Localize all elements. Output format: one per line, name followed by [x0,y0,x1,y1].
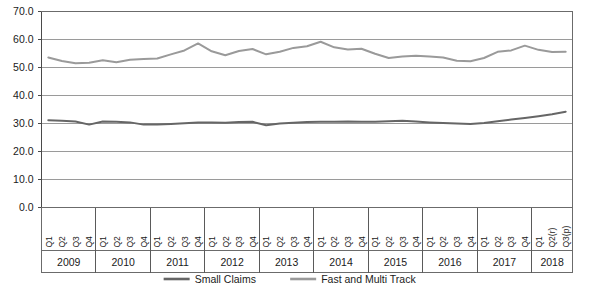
x-axis-quarter-label: Q3 [506,236,516,248]
series-line-fast-and-multi-track [48,42,565,64]
plot-area-border [42,12,573,208]
y-axis-label: 70.0 [13,5,34,17]
legend-label: Small Claims [195,273,256,285]
gridlines-group [42,12,573,208]
x-axis-quarter-label: Q4 [466,236,476,248]
x-axis-quarter-label: Q4 [357,236,367,248]
x-axis-quarter-label: Q3 [343,236,353,248]
x-axis-quarter-label: Q3 [71,236,81,248]
x-axis-quarter-label: Q1 [316,236,326,248]
y-axis-ticks-group [38,12,42,208]
x-axis-quarter-label: Q3 [452,236,462,248]
x-axis-quarter-label: Q2 [384,236,394,248]
x-axis-year-label: 2009 [57,256,81,268]
x-axis-quarter-label: Q1 [261,236,271,248]
chart-legend: Small ClaimsFast and Multi Track [164,273,417,285]
y-axis-label: 0.0 [19,201,34,213]
x-axis-quarter-label: Q1 [152,236,162,248]
y-axis-label: 40.0 [13,89,34,101]
x-axis-year-label: 2016 [438,256,462,268]
y-axis-label: 20.0 [13,145,34,157]
x-axis-quarter-label: Q4 [248,236,258,248]
line-chart: 70.060.050.040.030.020.010.00.0 Q1Q2Q3Q4… [0,0,594,287]
x-axis-year-label: 2017 [493,256,517,268]
x-axis-quarter-label: Q1 [534,236,544,248]
x-axis-quarter-label: Q4 [411,236,421,248]
x-axis-quarter-label: Q1 [479,236,489,248]
y-axis-label: 60.0 [13,33,34,45]
x-axis-year-label: 2015 [384,256,408,268]
y-axis-labels-group: 70.060.050.040.030.020.010.00.0 [13,5,34,213]
data-series-group [48,42,565,125]
x-axis-quarter-label: Q1 [370,236,380,248]
x-axis-quarter-label: Q3 [398,236,408,248]
x-axis-quarter-label: Q1 [98,236,108,248]
x-axis-quarter-label: Q1 [44,236,54,248]
x-axis-quarter-label: Q1 [207,236,217,248]
x-axis-quarter-label: Q3(p) [561,226,571,248]
x-axis-quarter-label: Q2 [275,236,285,248]
x-axis-quarter-label: Q2 [57,236,67,248]
x-axis-quarter-label: Q2 [438,236,448,248]
x-axis-quarter-label: Q3 [125,236,135,248]
x-axis-quarter-label: Q3 [234,236,244,248]
x-axis-quarter-label: Q3 [289,236,299,248]
y-axis-label: 10.0 [13,173,34,185]
x-axis-quarter-label: Q2(r) [547,228,557,248]
x-axis-year-label: 2014 [329,256,353,268]
legend-label: Fast and Multi Track [321,273,416,285]
x-axis-quarter-label: Q4 [302,236,312,248]
quarter-tick-labels-group: Q1Q2Q3Q4Q1Q2Q3Q4Q1Q2Q3Q4Q1Q2Q3Q4Q1Q2Q3Q4… [44,226,571,248]
x-axis-quarter-label: Q3 [180,236,190,248]
y-axis-label: 30.0 [13,117,34,129]
x-axis-quarter-label: Q2 [329,236,339,248]
x-axis-year-label: 2018 [540,256,564,268]
x-axis-quarter-label: Q2 [493,236,503,248]
x-axis-quarter-label: Q4 [520,236,530,248]
x-axis-quarter-label: Q2 [166,236,176,248]
x-axis-quarter-label: Q1 [425,236,435,248]
x-axis-year-label: 2012 [220,256,244,268]
y-axis-label: 50.0 [13,61,34,73]
plot-frame [42,12,573,273]
x-axis-quarter-label: Q4 [193,236,203,248]
x-axis-year-label: 2011 [166,256,189,268]
x-axis-year-label: 2010 [112,256,136,268]
x-axis-quarter-label: Q2 [112,236,122,248]
chart-container: 70.060.050.040.030.020.010.00.0 Q1Q2Q3Q4… [0,0,594,287]
x-axis-quarter-label: Q2 [221,236,231,248]
x-axis-quarter-label: Q4 [139,236,149,248]
year-labels-group: 2009201020112012201320142015201620172018 [57,256,564,268]
x-axis-year-label: 2013 [275,256,299,268]
x-axis-quarter-label: Q4 [84,236,94,248]
